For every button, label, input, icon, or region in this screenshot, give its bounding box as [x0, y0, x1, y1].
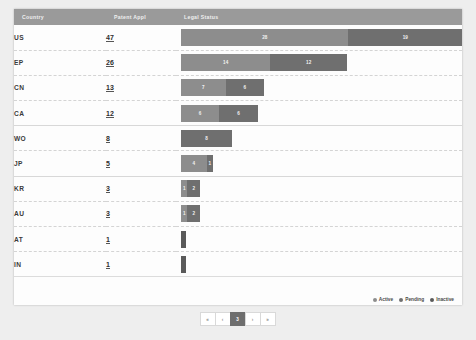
table-row[interactable]: AU312: [14, 201, 462, 226]
cell-patent-count: 12: [106, 101, 176, 126]
patent-count-value: 12: [106, 110, 114, 118]
table-row[interactable]: WO88: [14, 126, 462, 151]
pagination-page[interactable]: ‹: [215, 312, 231, 326]
bar-segment-pending[interactable]: 8: [181, 130, 232, 147]
legend-item-active[interactable]: Active: [373, 297, 393, 302]
patent-count-value: 5: [106, 160, 110, 168]
stacked-bar: [176, 256, 462, 273]
table-header: Country Patent Appl Legal Status: [14, 9, 462, 25]
stacked-bar: [176, 231, 462, 248]
legend-label-pending: Pending: [405, 297, 424, 302]
stacked-bar: 8: [176, 130, 462, 147]
cell-legal-status-bar: 12: [176, 201, 462, 226]
cell-legal-status-bar: [176, 252, 462, 277]
cell-country: KR: [14, 176, 106, 201]
stacked-bar: 76: [176, 79, 462, 96]
patent-count-value: 26: [106, 59, 114, 67]
pagination-page[interactable]: «: [200, 312, 216, 326]
cell-legal-status-bar: 76: [176, 75, 462, 100]
cell-legal-status-bar: 41: [176, 151, 462, 176]
bar-segment-pending[interactable]: 12: [270, 54, 347, 71]
cell-patent-count: 13: [106, 75, 176, 100]
table-row[interactable]: CN1376: [14, 75, 462, 100]
cell-patent-count: 3: [106, 201, 176, 226]
stacked-bar: 12: [176, 180, 462, 197]
pagination[interactable]: «‹3›»: [0, 312, 476, 326]
cell-legal-status-bar: 66: [176, 101, 462, 126]
table-body: US472819EP261412CN1376CA1266WO88JP541KR3…: [14, 25, 462, 277]
cell-patent-count: 1: [106, 227, 176, 252]
patent-count-value: 8: [106, 135, 110, 143]
table-row[interactable]: JP541: [14, 151, 462, 176]
screenshot-root: Country Patent Appl Legal Status US47281…: [0, 0, 476, 340]
bar-segment-pending[interactable]: 2: [187, 205, 200, 222]
cell-legal-status-bar: 12: [176, 176, 462, 201]
legend-item-pending[interactable]: Pending: [399, 297, 424, 302]
pagination-page-current[interactable]: 3: [230, 312, 246, 326]
legend-swatch-active-icon: [373, 298, 377, 302]
column-header-patent-appl[interactable]: Patent Appl: [106, 9, 176, 25]
pagination-page[interactable]: ›: [245, 312, 261, 326]
patent-count-value: 3: [106, 210, 110, 218]
cell-patent-count: 8: [106, 126, 176, 151]
bar-segment-inactive[interactable]: [181, 256, 186, 273]
cell-legal-status-bar: 1412: [176, 50, 462, 75]
cell-country: US: [14, 25, 106, 50]
cell-patent-count: 47: [106, 25, 176, 50]
bar-segment-active[interactable]: 28: [181, 29, 348, 46]
patent-table-card: Country Patent Appl Legal Status US47281…: [14, 9, 462, 305]
bar-segment-active[interactable]: 7: [181, 79, 226, 96]
cell-patent-count: 1: [106, 252, 176, 277]
bar-segment-pending[interactable]: 2: [187, 180, 200, 197]
cell-legal-status-bar: [176, 227, 462, 252]
stacked-bar: 12: [176, 205, 462, 222]
stacked-bar: 2819: [176, 29, 462, 46]
cell-legal-status-bar: 2819: [176, 25, 462, 50]
pagination-page[interactable]: »: [260, 312, 276, 326]
bar-segment-inactive[interactable]: [181, 231, 186, 248]
legend-swatch-pending-icon: [399, 298, 403, 302]
table-row[interactable]: AT1: [14, 227, 462, 252]
cell-patent-count: 5: [106, 151, 176, 176]
bar-segment-pending[interactable]: 19: [348, 29, 462, 46]
table-row[interactable]: US472819: [14, 25, 462, 50]
legend-swatch-inactive-icon: [430, 298, 434, 302]
legend-item-inactive[interactable]: Inactive: [430, 297, 454, 302]
cell-country: CA: [14, 101, 106, 126]
patent-count-value: 3: [106, 185, 110, 193]
column-header-legal-status[interactable]: Legal Status: [176, 9, 462, 25]
patent-count-value: 1: [106, 236, 110, 244]
bar-segment-pending[interactable]: 1: [207, 155, 213, 172]
table-header-row: Country Patent Appl Legal Status: [14, 9, 462, 25]
legend-label-inactive: Inactive: [436, 297, 454, 302]
table-row[interactable]: KR312: [14, 176, 462, 201]
cell-patent-count: 3: [106, 176, 176, 201]
table-row[interactable]: EP261412: [14, 50, 462, 75]
patent-count-value: 13: [106, 84, 114, 92]
bar-segment-pending[interactable]: 6: [226, 79, 264, 96]
cell-country: WO: [14, 126, 106, 151]
cell-country: IN: [14, 252, 106, 277]
column-header-country[interactable]: Country: [14, 9, 106, 25]
cell-legal-status-bar: 8: [176, 126, 462, 151]
table-row[interactable]: IN1: [14, 252, 462, 277]
cell-country: EP: [14, 50, 106, 75]
bar-segment-active[interactable]: 4: [181, 155, 207, 172]
stacked-bar: 1412: [176, 54, 462, 71]
cell-country: CN: [14, 75, 106, 100]
patent-table: Country Patent Appl Legal Status US47281…: [14, 9, 462, 277]
legend: Active Pending Inactive: [373, 297, 454, 302]
cell-country: AT: [14, 227, 106, 252]
bar-segment-active[interactable]: 6: [181, 105, 219, 122]
cell-country: JP: [14, 151, 106, 176]
cell-patent-count: 26: [106, 50, 176, 75]
bar-segment-active[interactable]: 14: [181, 54, 270, 71]
legend-label-active: Active: [379, 297, 393, 302]
bar-segment-pending[interactable]: 6: [219, 105, 257, 122]
patent-count-value: 1: [106, 261, 110, 269]
cell-country: AU: [14, 201, 106, 226]
table-row[interactable]: CA1266: [14, 101, 462, 126]
stacked-bar: 66: [176, 105, 462, 122]
stacked-bar: 41: [176, 155, 462, 172]
patent-count-value: 47: [106, 34, 114, 42]
